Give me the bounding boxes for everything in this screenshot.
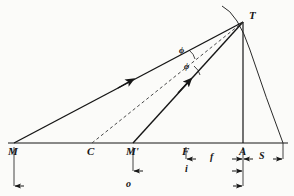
reflected-ray-arrowhead [178, 80, 190, 93]
angle-label-phi-upper: ϕ [179, 46, 184, 55]
dimension-label-i: i [185, 164, 188, 174]
dimension-label-o: o [126, 179, 131, 189]
angle-label-phi-lower: ϕ [184, 62, 189, 71]
point-label-F: F [182, 146, 189, 157]
dimension-label-f: f [210, 152, 213, 162]
optics-ray-diagram-figure: M C M' F A T ϕ ϕ f S i o [0, 0, 294, 196]
diagram-canvas [0, 0, 294, 196]
phi-upper-angle-tick [189, 50, 195, 59]
point-label-M-prime: M' [126, 146, 139, 157]
dimension-label-S: S [259, 151, 265, 161]
incident-ray-arrowhead [118, 80, 132, 88]
mirror-surface-arc [222, 6, 283, 143]
point-label-A: A [239, 146, 246, 157]
point-label-M: M [8, 146, 18, 157]
point-label-C: C [87, 146, 94, 157]
point-label-T: T [249, 10, 256, 21]
normal-ray-C-to-T [92, 22, 243, 143]
